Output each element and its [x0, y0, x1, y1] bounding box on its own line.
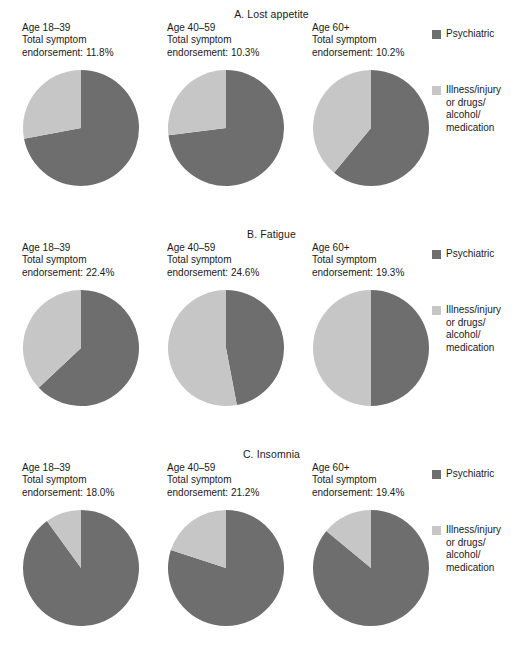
caption-c1-line3: endorsement: 18.0% [22, 487, 172, 499]
legend-label-illness-line3: alcohol/ [446, 329, 501, 341]
panel-c-title: C. Insomnia [0, 440, 529, 462]
legend-label-illness-line4: medication [446, 562, 501, 574]
legend-item-psychiatric: Psychiatric [432, 28, 529, 40]
caption-b1-line3: endorsement: 22.4% [22, 267, 172, 279]
legend-item-psychiatric: Psychiatric [432, 248, 529, 260]
pie-slice-psychiatric [226, 290, 284, 405]
legend-panel-a: Psychiatric Illness/injury or drugs/ alc… [432, 28, 529, 138]
caption-c2-line2: Total symptom [167, 474, 317, 486]
pie-chart-a1 [22, 69, 140, 187]
caption-c1-line1: Age 18–39 [22, 462, 172, 474]
legend-swatch-illness-icon [432, 526, 441, 535]
legend-label-illness-line3: alcohol/ [446, 109, 501, 121]
pie-chart-a3 [312, 69, 430, 187]
caption-a2: Age 40–59 Total symptom endorsement: 10.… [167, 22, 317, 59]
legend-label-illness: Illness/injury or drugs/ alcohol/ medica… [446, 524, 501, 574]
legend-swatch-illness-icon [432, 306, 441, 315]
pie-svg [22, 509, 140, 627]
chart-group-c1: Age 18–39 Total symptom endorsement: 18.… [22, 462, 172, 627]
pie-chart-a2 [167, 69, 285, 187]
legend-label-illness-line3: alcohol/ [446, 549, 501, 561]
pie-chart-b2 [167, 289, 285, 407]
legend-label-illness-line2: or drugs/ [446, 537, 501, 549]
pie-svg [22, 69, 140, 187]
pie-svg [167, 69, 285, 187]
caption-b2: Age 40–59 Total symptom endorsement: 24.… [167, 242, 317, 279]
legend-swatch-psychiatric-icon [432, 470, 441, 479]
legend-label-illness-line4: medication [446, 342, 501, 354]
legend-item-illness: Illness/injury or drugs/ alcohol/ medica… [432, 304, 529, 354]
legend-item-illness: Illness/injury or drugs/ alcohol/ medica… [432, 84, 529, 134]
chart-group-a2: Age 40–59 Total symptom endorsement: 10.… [167, 22, 317, 187]
legend-panel-b: Psychiatric Illness/injury or drugs/ alc… [432, 248, 529, 358]
chart-group-b2: Age 40–59 Total symptom endorsement: 24.… [167, 242, 317, 407]
legend-label-illness-line1: Illness/injury [446, 524, 501, 536]
chart-group-b1: Age 18–39 Total symptom endorsement: 22.… [22, 242, 172, 407]
pie-svg [22, 289, 140, 407]
caption-a1-line1: Age 18–39 [22, 22, 172, 34]
legend-item-psychiatric: Psychiatric [432, 468, 529, 480]
legend-label-illness-line2: or drugs/ [446, 97, 501, 109]
caption-b2-line3: endorsement: 24.6% [167, 267, 317, 279]
pie-svg [312, 509, 430, 627]
legend-label-psychiatric: Psychiatric [446, 468, 494, 480]
legend-label-illness-line2: or drugs/ [446, 317, 501, 329]
pie-slice-illness [23, 70, 81, 139]
caption-a2-line1: Age 40–59 [167, 22, 317, 34]
panel-c-insomnia: C. Insomnia Age 18–39 Total symptom endo… [0, 440, 529, 660]
panel-b-title: B. Fatigue [0, 220, 529, 242]
caption-b1-line1: Age 18–39 [22, 242, 172, 254]
pie-chart-c1 [22, 509, 140, 627]
pie-svg [312, 289, 430, 407]
caption-b2-line2: Total symptom [167, 254, 317, 266]
caption-a1: Age 18–39 Total symptom endorsement: 11.… [22, 22, 172, 59]
pie-slice-illness [168, 70, 226, 135]
caption-a1-line2: Total symptom [22, 34, 172, 46]
pie-chart-c3 [312, 509, 430, 627]
caption-c2-line1: Age 40–59 [167, 462, 317, 474]
caption-c1-line2: Total symptom [22, 474, 172, 486]
pie-chart-b1 [22, 289, 140, 407]
pie-chart-b3 [312, 289, 430, 407]
legend-swatch-psychiatric-icon [432, 30, 441, 39]
pie-slice-psychiatric [371, 290, 429, 406]
chart-group-a1: Age 18–39 Total symptom endorsement: 11.… [22, 22, 172, 187]
panel-b-body: Age 18–39 Total symptom endorsement: 22.… [0, 242, 529, 440]
legend-panel-c: Psychiatric Illness/injury or drugs/ alc… [432, 468, 529, 578]
caption-c1: Age 18–39 Total symptom endorsement: 18.… [22, 462, 172, 499]
legend-swatch-illness-icon [432, 86, 441, 95]
legend-label-psychiatric: Psychiatric [446, 248, 494, 260]
caption-a1-line3: endorsement: 11.8% [22, 47, 172, 59]
legend-label-illness-line1: Illness/injury [446, 304, 501, 316]
caption-b2-line1: Age 40–59 [167, 242, 317, 254]
panel-a-title: A. Lost appetite [0, 0, 529, 22]
pie-chart-c2 [167, 509, 285, 627]
panel-c-body: Age 18–39 Total symptom endorsement: 18.… [0, 462, 529, 660]
legend-swatch-psychiatric-icon [432, 250, 441, 259]
panel-a-body: Age 18–39 Total symptom endorsement: 11.… [0, 22, 529, 220]
pie-slice-illness [313, 290, 371, 406]
chart-group-c2: Age 40–59 Total symptom endorsement: 21.… [167, 462, 317, 627]
caption-b1-line2: Total symptom [22, 254, 172, 266]
pie-svg [167, 509, 285, 627]
pie-svg [312, 69, 430, 187]
pie-svg [167, 289, 285, 407]
caption-c2-line3: endorsement: 21.2% [167, 487, 317, 499]
figure-pie-chart-panels: A. Lost appetite Age 18–39 Total symptom… [0, 0, 529, 660]
legend-item-illness: Illness/injury or drugs/ alcohol/ medica… [432, 524, 529, 574]
panel-a-lost-appetite: A. Lost appetite Age 18–39 Total symptom… [0, 0, 529, 220]
legend-label-illness: Illness/injury or drugs/ alcohol/ medica… [446, 304, 501, 354]
legend-label-psychiatric: Psychiatric [446, 28, 494, 40]
legend-label-illness: Illness/injury or drugs/ alcohol/ medica… [446, 84, 501, 134]
legend-label-illness-line4: medication [446, 122, 501, 134]
panel-b-fatigue: B. Fatigue Age 18–39 Total symptom endor… [0, 220, 529, 440]
caption-b1: Age 18–39 Total symptom endorsement: 22.… [22, 242, 172, 279]
caption-a2-line2: Total symptom [167, 34, 317, 46]
legend-label-illness-line1: Illness/injury [446, 84, 501, 96]
caption-a2-line3: endorsement: 10.3% [167, 47, 317, 59]
caption-c2: Age 40–59 Total symptom endorsement: 21.… [167, 462, 317, 499]
